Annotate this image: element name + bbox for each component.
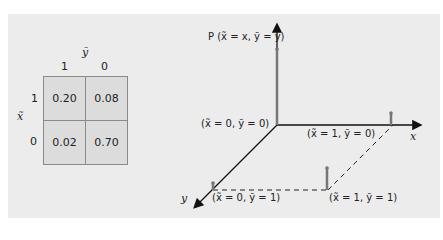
p-axis-label: P (x̃ = x, ỹ = y)	[208, 31, 285, 42]
point-label-x1-y1: (x̃ = 1, ỹ = 1)	[329, 192, 397, 203]
y-axis-label: y	[181, 192, 187, 205]
point-label-x0-y0: (x̃ = 0, ỹ = 0)	[201, 118, 269, 129]
point-label-x1-y0: (x̃ = 1, ỹ = 0)	[307, 128, 375, 139]
point-label-x0-y1: (x̃ = 0, ỹ = 1)	[212, 192, 280, 203]
x-axis-label: x	[410, 130, 416, 143]
